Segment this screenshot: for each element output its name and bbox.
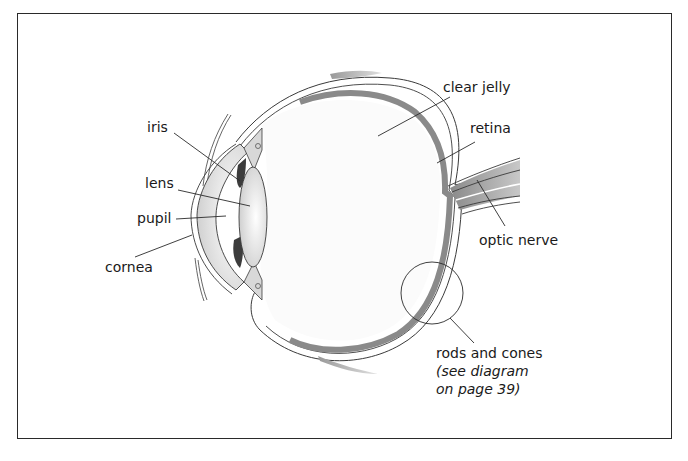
label-retina: retina	[470, 119, 511, 137]
rods-and-cones-note-line2: on page 39)	[436, 380, 542, 398]
lower-muscle	[318, 356, 378, 374]
label-iris: iris	[147, 118, 168, 136]
rods-and-cones-title: rods and cones	[436, 345, 542, 361]
optic-nerve-shape	[448, 158, 520, 214]
lens-shape	[239, 167, 267, 267]
label-optic-nerve: optic nerve	[479, 231, 558, 249]
eye-cross-section-illustration	[0, 0, 688, 461]
label-lens: lens	[145, 174, 174, 192]
vitreous-body	[261, 100, 441, 341]
rods-and-cones-note-line1: (see diagram	[436, 362, 542, 380]
label-rods-and-cones: rods and cones (see diagram on page 39)	[436, 344, 542, 398]
label-clear-jelly: clear jelly	[443, 78, 511, 96]
label-pupil: pupil	[137, 209, 171, 227]
label-cornea: cornea	[105, 258, 153, 276]
